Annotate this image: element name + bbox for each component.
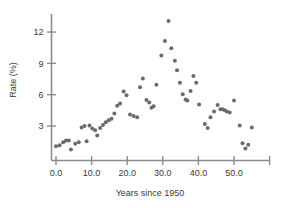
data-point [147,101,151,105]
data-point [138,85,142,89]
data-point [173,59,177,63]
data-point [212,109,216,113]
scatter-plot-figure: 36912 0.010.020.030.040.050.0 Years sinc… [0,0,295,208]
data-point [203,122,207,126]
data-point [132,114,136,118]
data-point [238,123,242,127]
data-point [77,140,81,144]
data-point [241,141,245,145]
data-point [185,98,189,102]
data-point [95,133,99,137]
x-axis-tick-label: 20.0 [118,168,136,178]
data-point [216,103,220,107]
y-axis-tick-label: 3 [38,121,43,131]
data-point [110,117,114,121]
x-axis-tick-label: 0.0 [50,168,63,178]
data-point [154,83,158,87]
data-point [98,126,102,130]
data-point [191,74,195,78]
x-axis-tick-label: 50.0 [225,168,243,178]
data-point [243,146,247,150]
data-point [228,110,232,114]
y-axis-tick-label: 9 [38,59,43,69]
data-point [163,39,167,43]
data-point [69,147,73,151]
chart-canvas: 36912 0.010.020.030.040.050.0 Years sinc… [0,0,295,208]
y-axis-title: Rate (%) [8,62,18,98]
data-point [169,46,173,50]
data-point [159,54,163,58]
data-point [152,104,156,108]
data-points-layer [54,19,254,151]
data-point [178,81,182,85]
data-point [122,90,126,94]
data-point [189,89,193,93]
y-axis: 36912 [33,14,56,161]
data-point [54,144,58,148]
data-point [128,113,132,117]
data-point [112,111,116,115]
data-point [58,143,62,147]
data-point [87,123,91,127]
data-point [181,92,185,96]
data-point [232,98,236,102]
data-point [206,126,210,130]
data-point [141,77,145,81]
y-axis-tick-label: 12 [33,27,43,37]
x-axis-tick-label: 40.0 [190,168,208,178]
data-point [135,115,139,119]
data-point [197,103,201,107]
data-point [167,19,171,23]
x-axis-tick-label: 10.0 [83,168,101,178]
data-point [124,93,128,97]
data-point [85,139,89,143]
data-point [250,126,254,130]
data-point [93,128,97,132]
data-point [246,143,250,147]
data-point [194,81,198,85]
data-point [82,124,86,128]
data-point [67,138,71,142]
data-point [175,68,179,72]
y-axis-tick-label: 6 [38,90,43,100]
data-point [209,115,213,119]
data-point [118,102,122,106]
x-axis-title: Years since 1950 [116,188,185,198]
x-axis: 0.010.020.030.040.050.0 [50,156,270,178]
data-point [73,142,77,146]
x-axis-tick-label: 30.0 [154,168,172,178]
